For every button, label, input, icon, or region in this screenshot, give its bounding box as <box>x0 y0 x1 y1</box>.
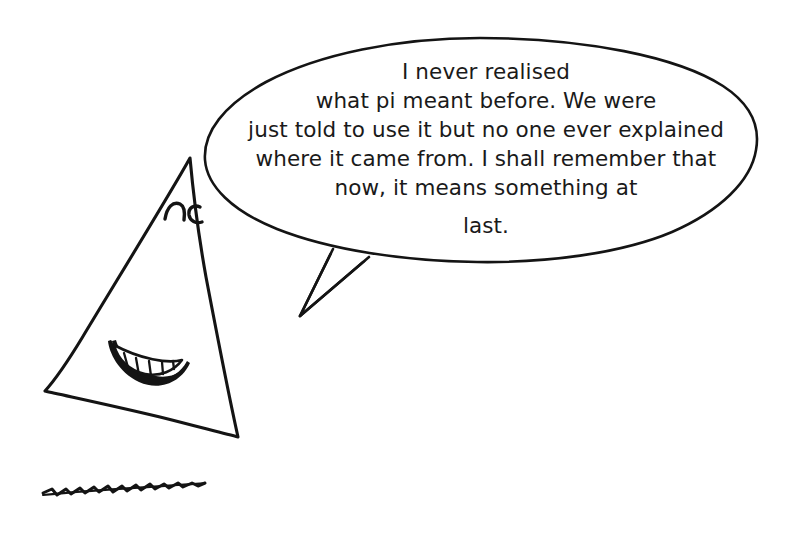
cartoon-canvas: I never realised what pi meant before. W… <box>0 0 786 534</box>
speech-line-4: where it came from. I shall remember tha… <box>256 146 717 171</box>
speech-line-3: just told to use it but no one ever expl… <box>247 117 724 142</box>
triangle-character <box>45 158 238 437</box>
speech-line-1: I never realised <box>402 59 570 84</box>
cartoon-illustration: I never realised what pi meant before. W… <box>0 0 786 534</box>
speech-bubble-tail <box>300 246 372 316</box>
tooth-divider-5 <box>173 361 174 369</box>
tooth-divider-4 <box>162 362 163 374</box>
speech-line-2: what pi meant before. We were <box>316 88 657 113</box>
squiggly-ground-line <box>43 483 205 495</box>
speech-line-6: last. <box>463 213 509 238</box>
speech-line-5: now, it means something at <box>334 175 637 200</box>
